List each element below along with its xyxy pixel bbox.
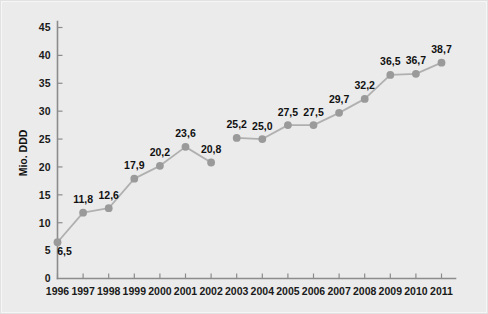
- x-axis-tick-label: 2001: [174, 285, 198, 297]
- data-point-label: 23,6: [175, 127, 196, 139]
- y-axis-tick-label: 30: [39, 105, 51, 117]
- data-point-marker[interactable]: [258, 135, 266, 143]
- data-point-label: 6,5: [57, 245, 72, 257]
- data-point-marker[interactable]: [207, 159, 215, 167]
- x-axis-tick-label: 2009: [379, 285, 403, 297]
- y-axis-tick-label: 25: [39, 133, 51, 145]
- y-axis-tick-label: 40: [39, 49, 51, 61]
- data-point-marker[interactable]: [233, 134, 241, 142]
- data-point-label: 27,5: [303, 106, 324, 118]
- data-point-label: 20,8: [201, 143, 222, 155]
- x-axis-tick-label: 1997: [71, 285, 95, 297]
- y-axis-tick-label: 45: [39, 21, 51, 33]
- x-axis-tick-label: 2010: [404, 285, 428, 297]
- data-point-label: 12,6: [98, 189, 119, 201]
- data-point-marker[interactable]: [386, 71, 394, 79]
- y-axis-tick-label: 10: [39, 217, 51, 229]
- x-axis-tick-label: 2004: [251, 285, 275, 297]
- data-point-label: 25,0: [252, 120, 273, 132]
- data-point-label: 36,5: [380, 55, 401, 67]
- x-axis-tick-label: 2007: [327, 285, 351, 297]
- data-point-label: 29,7: [329, 93, 350, 105]
- y-axis-tick-label: 35: [39, 77, 51, 89]
- data-point-marker[interactable]: [361, 95, 369, 103]
- x-axis-tick-label: 1998: [97, 285, 121, 297]
- data-point-marker[interactable]: [335, 109, 343, 117]
- data-point-marker[interactable]: [412, 70, 420, 78]
- y-axis-tick-label: 0: [45, 272, 51, 284]
- data-point-marker[interactable]: [130, 175, 138, 183]
- data-point-label: 27,5: [278, 106, 299, 118]
- data-point-label: 17,9: [124, 159, 145, 171]
- data-point-marker[interactable]: [156, 162, 164, 170]
- y-axis-tick-label: 20: [39, 161, 51, 173]
- x-axis-tick-label: 2005: [276, 285, 300, 297]
- data-point-marker[interactable]: [438, 59, 446, 67]
- data-point-marker[interactable]: [310, 121, 318, 129]
- data-point-label: 11,8: [73, 193, 93, 205]
- y-axis-tick-label: 15: [39, 189, 51, 201]
- data-point-marker[interactable]: [182, 143, 190, 151]
- y-axis-title: Mio. DDD: [17, 129, 29, 176]
- data-point-label: 32,2: [354, 79, 375, 91]
- x-axis-tick-label: 2003: [225, 285, 249, 297]
- data-point-label: 36,7: [406, 54, 427, 66]
- data-point-marker[interactable]: [79, 209, 87, 217]
- x-axis-tick-label: 2006: [302, 285, 326, 297]
- data-point-label: 20,2: [150, 146, 171, 158]
- data-point-marker[interactable]: [284, 121, 292, 129]
- x-axis-tick-label: 2002: [199, 285, 223, 297]
- x-axis-tick-label: 1999: [123, 285, 147, 297]
- x-axis-tick-label: 2000: [148, 285, 172, 297]
- data-point-marker[interactable]: [105, 204, 113, 212]
- data-point-label: 25,2: [226, 118, 247, 130]
- x-axis-tick-label: 2011: [430, 285, 453, 297]
- chart-figure: 0510152025303540451996199719981999200020…: [0, 0, 488, 314]
- line-chart: 0510152025303540451996199719981999200020…: [1, 1, 488, 314]
- x-axis-tick-label: 1996: [46, 285, 70, 297]
- y-axis-tick-label: 5: [45, 244, 51, 256]
- data-point-label: 38,7: [431, 43, 452, 55]
- x-axis-tick-label: 2008: [353, 285, 377, 297]
